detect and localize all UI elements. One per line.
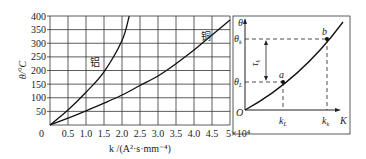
y-tick-label: 400 bbox=[31, 11, 46, 22]
x-tick-label: 0.5 bbox=[62, 128, 75, 139]
K-axis-label: K bbox=[339, 115, 348, 126]
x-axis-label: k /(A²·s·mm⁻⁴) bbox=[109, 143, 171, 155]
x-tick-label: 1.0 bbox=[80, 128, 93, 139]
point-b bbox=[325, 37, 329, 41]
point-b-label: b bbox=[322, 26, 327, 37]
theta-axis-label: θ bbox=[238, 17, 243, 28]
right-schematic: θ θk θL O kL kk K a b τk bbox=[233, 16, 350, 134]
tau-k-label: τk bbox=[249, 60, 261, 67]
x-tick-label: 5×10⁴ bbox=[226, 128, 251, 139]
series-label-copper: 铜 bbox=[201, 31, 211, 42]
series-label-aluminum: 铝 bbox=[90, 57, 100, 68]
k-k-label: kk bbox=[322, 115, 329, 127]
left-chart: 00.51.01.52.02.53.03.54.04.55×10⁴ 501001… bbox=[17, 11, 251, 156]
point-a-label: a bbox=[279, 69, 284, 80]
y-tick-label: 50 bbox=[36, 106, 46, 117]
y-tick-label: 100 bbox=[31, 92, 46, 103]
x-tick-label: 4.0 bbox=[188, 128, 201, 139]
x-tick-label: 3.0 bbox=[152, 128, 165, 139]
x-tick-label: 4.5 bbox=[206, 128, 219, 139]
x-tick-labels: 00.51.01.52.02.53.03.54.04.55×10⁴ bbox=[39, 128, 251, 139]
y-axis-label: θ/°C bbox=[17, 60, 28, 79]
k-L-label: kL bbox=[279, 115, 287, 127]
tau-arrow-down-icon bbox=[264, 76, 268, 81]
point-a bbox=[281, 80, 285, 84]
x-tick-label: 3.5 bbox=[170, 128, 183, 139]
theta-L-label: θL bbox=[234, 76, 243, 88]
theta-axis-arrow-icon bbox=[243, 18, 247, 24]
x-tick-label: 2.5 bbox=[134, 128, 147, 139]
theta-k-label: θk bbox=[234, 33, 242, 45]
tau-arrow-up-icon bbox=[264, 40, 268, 45]
x-tick-label: 0 bbox=[39, 128, 44, 139]
origin-label: O bbox=[236, 107, 243, 118]
y-tick-label: 250 bbox=[31, 51, 46, 62]
figure: 00.51.01.52.02.53.03.54.04.55×10⁴ 501001… bbox=[0, 0, 366, 159]
y-tick-labels: 50100150200250300350400 bbox=[31, 11, 46, 117]
x-tick-label: 1.5 bbox=[98, 128, 111, 139]
schematic-frame bbox=[233, 16, 350, 134]
y-tick-label: 150 bbox=[31, 79, 46, 90]
y-tick-label: 350 bbox=[31, 24, 46, 35]
y-tick-label: 300 bbox=[31, 38, 46, 49]
y-tick-label: 200 bbox=[31, 65, 46, 76]
x-tick-label: 2.0 bbox=[116, 128, 129, 139]
k-axis-arrow-icon bbox=[335, 108, 341, 112]
